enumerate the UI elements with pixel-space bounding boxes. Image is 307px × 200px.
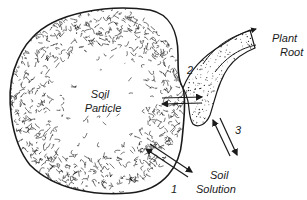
stipple-dot: [227, 45, 228, 46]
stipple-dot: [215, 62, 216, 63]
stipple-dot: [215, 80, 216, 81]
stipple-dot: [235, 39, 236, 40]
stipple-dot: [186, 90, 187, 91]
stipple-dot: [241, 42, 242, 43]
stipple-dot: [196, 123, 197, 124]
stipple-dot: [201, 65, 202, 66]
stipple-dot: [189, 79, 190, 80]
stipple-dot: [240, 39, 241, 40]
stipple-dot: [212, 78, 213, 79]
stipple-dot: [202, 69, 203, 70]
stipple-dot: [210, 58, 211, 59]
stipple-dot: [200, 77, 201, 78]
stipple-dot: [208, 61, 209, 62]
stipple-dot: [199, 112, 200, 113]
stipple-dot: [189, 82, 190, 83]
stipple-dot: [188, 87, 189, 88]
stipple-dot: [203, 111, 204, 112]
stipple-dot: [193, 120, 194, 121]
stipple-dot: [222, 74, 223, 75]
stipple-dot: [221, 70, 222, 71]
stipple-dot: [190, 94, 191, 95]
stipple-dot: [222, 66, 223, 67]
stipple-dot: [246, 42, 247, 43]
stipple-dot: [199, 109, 200, 110]
stipple-dot: [189, 87, 190, 88]
stipple-dot: [242, 34, 243, 35]
stipple-dot: [225, 52, 226, 53]
stipple-dot: [208, 71, 209, 72]
stipple-dot: [210, 66, 211, 67]
pathway-number-3: 3: [235, 124, 242, 136]
texture-stroke: [66, 10, 68, 13]
stipple-dot: [205, 67, 206, 68]
stipple-dot: [212, 73, 213, 74]
stipple-dot: [217, 81, 218, 82]
stipple-dot: [212, 76, 213, 77]
soil-root-diagram: Soil Particle Plant Root Soil Solution 1…: [0, 0, 307, 200]
stipple-dot: [247, 36, 248, 37]
stipple-dot: [206, 110, 207, 111]
label-plant-root-2: Root: [280, 46, 304, 58]
stipple-dot: [246, 34, 247, 35]
texture-stroke: [63, 13, 68, 14]
stipple-dot: [199, 83, 200, 84]
stipple-dot: [195, 101, 196, 102]
stipple-dot: [227, 61, 228, 62]
stipple-dot: [199, 69, 200, 70]
stipple-dot: [196, 78, 197, 79]
stipple-dot: [200, 74, 201, 75]
stipple-dot: [207, 72, 208, 73]
stipple-dot: [226, 50, 227, 51]
stipple-dot: [233, 58, 234, 59]
pathway-3-arrows: [213, 118, 237, 156]
stipple-dot: [218, 66, 219, 67]
stipple-dot: [207, 94, 208, 95]
stipple-dot: [208, 85, 209, 86]
stipple-dot: [197, 106, 198, 107]
stipple-dot: [210, 88, 211, 89]
stipple-dot: [218, 53, 219, 54]
stipple-dot: [250, 47, 251, 48]
stipple-dot: [242, 46, 243, 47]
stipple-dot: [205, 117, 206, 118]
stipple-dot: [205, 99, 206, 100]
stipple-dot: [207, 80, 208, 81]
stipple-dot: [193, 82, 194, 83]
stipple-dot: [198, 114, 199, 115]
stipple-dot: [195, 112, 196, 113]
texture-stroke: [80, 5, 83, 9]
pathway-number-2: 2: [186, 64, 193, 76]
plant-root: [183, 29, 256, 126]
stipple-dot: [220, 51, 221, 52]
stipple-dot: [217, 77, 218, 78]
stipple-dot: [210, 84, 211, 85]
stipple-dot: [221, 46, 222, 47]
stipple-dot: [236, 38, 237, 39]
stipple-dot: [201, 60, 202, 61]
stipple-dot: [188, 90, 189, 91]
stipple-dot: [204, 85, 205, 86]
stipple-dot: [219, 56, 220, 57]
stipple-dot: [202, 109, 203, 110]
texture-stroke: [60, 11, 62, 15]
stipple-dot: [208, 91, 209, 92]
stipple-dot: [207, 100, 208, 101]
stipple-dot: [217, 55, 218, 56]
stipple-dot: [248, 41, 249, 42]
stipple-dot: [195, 85, 196, 86]
stipple-dot: [200, 98, 201, 99]
stipple-dot: [192, 114, 193, 115]
stipple-dot: [201, 83, 202, 84]
texture-stroke: [41, 24, 43, 27]
stipple-dot: [193, 95, 194, 96]
texture-stroke: [77, 6, 79, 9]
stipple-dot: [212, 54, 213, 55]
stipple-dot: [215, 59, 216, 60]
stipple-dot: [212, 103, 213, 104]
stipple-dot: [214, 90, 215, 91]
stipple-dot: [203, 100, 204, 101]
stipple-dot: [192, 120, 193, 121]
stipple-dot: [198, 83, 199, 84]
stipple-dot: [196, 122, 197, 123]
